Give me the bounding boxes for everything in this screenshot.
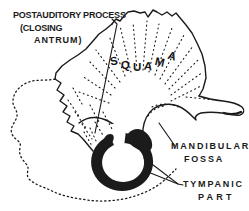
- squama-letter: S: [109, 54, 119, 67]
- label-postauditory-process: POSTAUDITORY PROCESS: [13, 11, 126, 20]
- temporal-bone-figure: POSTAUDITORY PROCESS (CLOSING ANTRUM) SQ…: [0, 0, 249, 211]
- stipple-ray: [79, 92, 109, 103]
- stipple-ray: [73, 88, 82, 104]
- label-squama: SQUAMA: [110, 51, 182, 71]
- stipple-ray: [84, 132, 92, 146]
- label-closing: (CLOSING: [20, 24, 62, 33]
- stipple-ray: [82, 76, 111, 95]
- squama-letter: A: [166, 49, 177, 63]
- stipple-ray: [171, 86, 201, 101]
- label-part: PART: [198, 193, 235, 202]
- label-tympanic: TYMPANIC: [183, 180, 244, 189]
- stipple-ray: [171, 72, 203, 95]
- zygoma-tip-shadow: [224, 112, 241, 114]
- squama-letter: U: [133, 61, 141, 73]
- label-mandibular: MANDIBULAR: [171, 142, 249, 151]
- ring-upper-right-mass: [126, 129, 152, 152]
- squama-stipple-rays: [68, 21, 203, 146]
- leader-tympanic-part-lower: [148, 172, 178, 184]
- squama-letter: A: [143, 60, 153, 73]
- stipple-ray: [68, 100, 79, 116]
- squama-letter: Q: [120, 59, 130, 72]
- leader-postauditory-process: [95, 19, 117, 133]
- zygomatic-process-outline: [143, 96, 244, 146]
- label-fossa: FOSSA: [184, 155, 224, 164]
- petromastoid-dotted-outline: [11, 79, 176, 201]
- label-antrum: ANTRUM): [34, 36, 82, 45]
- squama-letter: M: [154, 55, 166, 69]
